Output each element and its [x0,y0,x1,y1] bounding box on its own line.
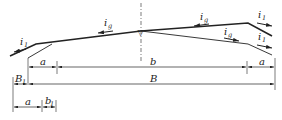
svg-text:1: 1 [22,78,26,86]
svg-text:1: 1 [24,41,28,49]
centerline-marker-icon: ▽ [138,28,145,37]
svg-text:a: a [25,96,31,107]
slope-label-right-pavement-lower: i g [224,26,239,41]
svg-text:i: i [200,11,203,22]
svg-text:B: B [149,73,157,84]
svg-text:g: g [204,16,208,24]
svg-text:g: g [228,31,232,39]
svg-text:i: i [224,26,227,37]
svg-text:1: 1 [262,36,266,44]
slope-label-right-pavement-upper: i g [194,11,209,26]
dimension-row-1: a b a [29,56,274,67]
svg-text:i: i [258,31,261,42]
dimension-row-2: B 1 B [14,73,274,86]
svg-text:a: a [259,56,265,67]
svg-text:1: 1 [262,14,266,22]
slope-label-left-shoulder: i 1 [14,36,28,52]
svg-text:g: g [108,22,112,30]
dimension-row-3: a b 1 [14,95,55,108]
svg-text:i: i [258,9,261,20]
slope-label-left-pavement: i g [98,17,113,33]
road-surface-lower [28,31,272,58]
slope-label-right-shoulder-lower: i 1 [257,31,272,48]
road-cross-section-diagram: ▽ i 1 i g i g i 1 i g i 1 [0,0,282,120]
svg-text:i: i [20,36,23,47]
svg-text:1: 1 [50,100,54,108]
svg-text:b: b [150,56,156,67]
svg-text:i: i [104,17,107,28]
svg-text:a: a [40,56,46,67]
slope-label-right-shoulder-upper: i 1 [257,9,272,26]
